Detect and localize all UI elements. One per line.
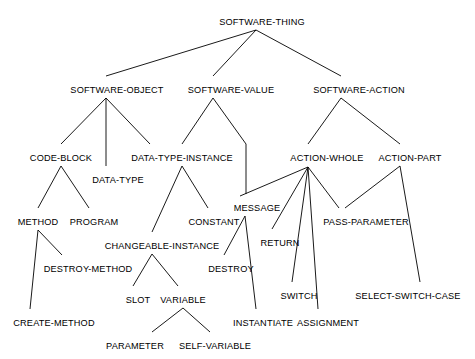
tree-node-software-value: SOFTWARE-VALUE [188, 85, 274, 95]
tree-edge [345, 166, 400, 208]
tree-node-software-thing: SOFTWARE-THING [219, 17, 304, 27]
tree-edge [341, 98, 400, 144]
tree-edge [38, 166, 61, 208]
tree-edge [292, 167, 308, 282]
tree-edge [106, 30, 256, 76]
tree-edge [240, 167, 308, 196]
tree-edge [308, 167, 318, 309]
tree-node-software-object: SOFTWARE-OBJECT [70, 85, 163, 95]
tree-node-action-whole: ACTION-WHOLE [290, 153, 363, 163]
tree-node-code-block: CODE-BLOCK [30, 153, 92, 163]
tree-node-assignment: ASSIGNMENT [297, 318, 359, 328]
tree-edge [308, 167, 339, 208]
tree-edge [133, 254, 152, 286]
tree-edge [152, 166, 182, 232]
tree-edge [38, 230, 62, 255]
taxonomy-diagram: SOFTWARE-THINGSOFTWARE-OBJECTSOFTWARE-VA… [0, 0, 475, 359]
tree-node-program: PROGRAM [70, 217, 119, 227]
edge-layer [0, 0, 475, 359]
tree-edge [272, 167, 308, 229]
tree-edge [152, 254, 178, 286]
tree-node-destroy: DESTROY [208, 264, 253, 274]
tree-node-action-part: ACTION-PART [378, 153, 441, 163]
tree-node-method: METHOD [18, 217, 59, 227]
tree-node-return: RETURN [260, 238, 299, 248]
tree-edge [245, 216, 256, 309]
tree-node-variable: VARIABLE [160, 295, 205, 305]
tree-node-data-type-instance: DATA-TYPE-INSTANCE [131, 153, 233, 163]
tree-edge [183, 308, 210, 332]
tree-edge [30, 230, 38, 309]
tree-edge [106, 98, 150, 144]
tree-node-message: MESSAGE [234, 203, 281, 213]
tree-node-slot: SLOT [126, 295, 151, 305]
tree-node-create-method: CREATE-METHOD [13, 318, 94, 328]
tree-node-destroy-method: DESTROY-METHOD [44, 264, 133, 274]
tree-node-data-type: DATA-TYPE [92, 175, 144, 185]
tree-node-pass-parameter: PASS-PARAMETER [323, 217, 408, 227]
tree-edge [152, 308, 183, 332]
tree-node-select-switch-case: SELECT-SWITCH-CASE [355, 291, 460, 301]
tree-node-constant: CONSTANT [188, 217, 239, 227]
tree-node-instantiate: INSTANTIATE [233, 318, 293, 328]
tree-edge [182, 98, 213, 144]
tree-edge [61, 98, 106, 144]
tree-node-switch: SWITCH [280, 291, 317, 301]
tree-edge [61, 166, 89, 208]
tree-edge [308, 98, 341, 144]
tree-edge [213, 98, 246, 144]
tree-node-software-action: SOFTWARE-ACTION [313, 85, 405, 95]
tree-node-parameter: PARAMETER [106, 341, 164, 351]
tree-node-self-variable: SELF-VARIABLE [179, 341, 251, 351]
tree-edge [182, 166, 208, 208]
tree-edge [256, 30, 341, 76]
tree-edge [213, 30, 256, 76]
tree-node-changeable-instance: CHANGEABLE-INSTANCE [105, 241, 219, 251]
